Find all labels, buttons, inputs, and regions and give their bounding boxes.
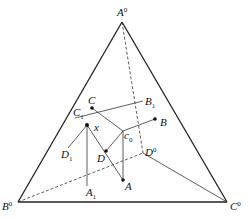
edge-d0-c0 [143,153,227,202]
label-a1: A1 [85,186,97,201]
edge-a0-c0 [122,22,227,202]
label-b0: B0 [2,200,13,212]
label-c1: C1 [73,106,84,121]
line-x-a [87,125,123,180]
edge-b0-d0 [18,153,143,202]
label-d: D [96,152,105,164]
label-a: A [124,180,132,192]
edge-a0-b0 [18,22,122,202]
label-d1: D1 [60,148,73,163]
point-c [90,106,94,110]
label-x: x [93,121,99,133]
line-c1-b1 [75,101,143,118]
label-c0: C0 [230,200,241,212]
line-x-d1 [68,125,87,148]
label-d0: D0 [144,146,157,158]
label-c0-point: c0 [124,129,133,144]
label-a0: A0 [116,6,128,18]
point-b [153,117,157,121]
label-b1: B1 [145,95,156,110]
label-c: C [88,94,96,106]
label-b: B [160,116,167,128]
tetrahedron-diagram: A0 B0 C0 D0 A B C D x c0 A1 B1 C1 D1 [0,0,248,218]
point-x [85,123,89,127]
line-c0-d [106,131,123,151]
